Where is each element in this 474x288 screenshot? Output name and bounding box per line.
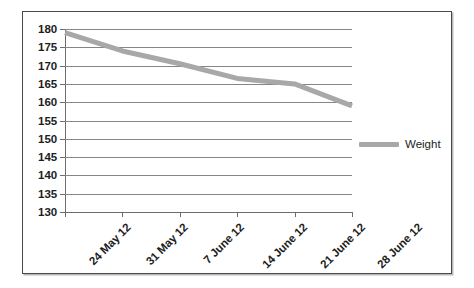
x-tick-label-1: 31 May 12 [144,221,190,267]
x-tick-4 [295,212,296,217]
x-tick-label-3: 14 June 12 [260,221,309,270]
weight-series-line [65,29,352,212]
y-tick-label-155: 155 [38,115,57,127]
legend-label-weight: Weight [405,138,441,150]
x-tick-2 [180,212,181,217]
y-tick-label-145: 145 [38,151,57,163]
weight-line-path [65,33,352,106]
x-tick-0 [65,212,66,217]
legend-swatch-weight [359,142,399,147]
x-tick-1 [122,212,123,217]
y-tick-label-135: 135 [38,188,57,200]
x-tick-label-5: 28 June 12 [375,221,424,270]
y-tick-label-165: 165 [38,78,57,90]
legend: Weight [359,138,441,150]
y-tick-label-180: 180 [38,23,57,35]
x-tick-3 [237,212,238,217]
y-tick-label-170: 170 [38,60,57,72]
gridline-130 [65,212,352,213]
x-tick-5 [352,212,353,217]
y-tick-label-150: 150 [38,133,57,145]
y-tick-label-160: 160 [38,96,57,108]
x-tick-label-0: 24 May 12 [87,221,133,267]
chart-container: 180175170165160155150145140135130 24 May… [22,11,452,274]
x-tick-label-4: 21 June 12 [318,221,367,270]
y-tick-label-140: 140 [38,169,57,181]
plot-area: 180175170165160155150145140135130 24 May… [65,29,352,212]
y-tick-label-175: 175 [38,41,57,53]
x-tick-label-2: 7 June 12 [201,221,246,266]
y-tick-label-130: 130 [38,206,57,218]
